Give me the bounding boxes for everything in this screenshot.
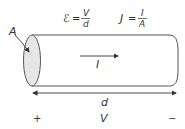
field-equation: ℰ = V d	[63, 8, 90, 29]
svg-text:=: =	[128, 13, 136, 24]
voltage-label: V	[100, 112, 109, 125]
cylinder-diagram: A I d + V − ℰ = V d J = I A	[0, 0, 185, 129]
cylinder	[24, 35, 179, 86]
current-density-equation: J = I A	[118, 8, 147, 29]
minus-sign: −	[168, 113, 176, 124]
svg-text:=: =	[72, 13, 80, 24]
cross-section-area	[24, 35, 41, 86]
svg-text:I: I	[141, 8, 144, 18]
svg-text:d: d	[83, 19, 89, 29]
svg-text:V: V	[83, 8, 90, 18]
svg-text:ℰ: ℰ	[63, 12, 70, 25]
length-label: d	[101, 96, 109, 109]
svg-text:A: A	[138, 19, 145, 29]
plus-sign: +	[33, 113, 41, 124]
area-label: A	[8, 25, 17, 38]
svg-text:J: J	[118, 12, 123, 25]
current-label: I	[96, 58, 99, 71]
